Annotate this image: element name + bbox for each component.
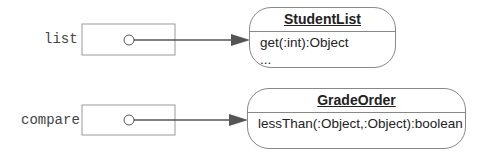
arrow-head-icon: [229, 114, 248, 126]
arrow-head-icon: [231, 34, 250, 46]
class-name: GradeOrder: [248, 89, 465, 113]
variable-label-list: list: [44, 31, 78, 47]
class-name: StudentList: [250, 8, 395, 32]
reference-dot-list: [124, 35, 134, 45]
reference-dot-compare: [124, 115, 134, 125]
operation: ...: [250, 51, 395, 68]
operation: lessThan(:Object,:Object):boolean: [248, 115, 465, 132]
variable-label-compare: compare: [21, 112, 80, 128]
operation: get(:int):Object: [250, 34, 395, 51]
object-gradeorder: GradeOrder lessThan(:Object,:Object):boo…: [247, 88, 466, 149]
object-studentlist: StudentList get(:int):Object ...: [249, 7, 396, 68]
